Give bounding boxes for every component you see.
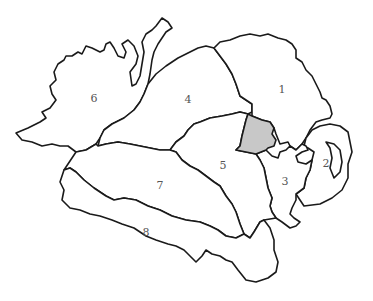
region-label-4: 4 [185,93,192,106]
region-label-1: 1 [279,83,286,96]
region-label-5: 5 [220,159,227,172]
region-label-3: 3 [282,175,289,188]
map-canvas [0,0,373,301]
region-label-8: 8 [143,226,150,239]
region-label-2: 2 [323,157,330,170]
region-label-6: 6 [91,92,98,105]
region-label-7: 7 [157,179,164,192]
